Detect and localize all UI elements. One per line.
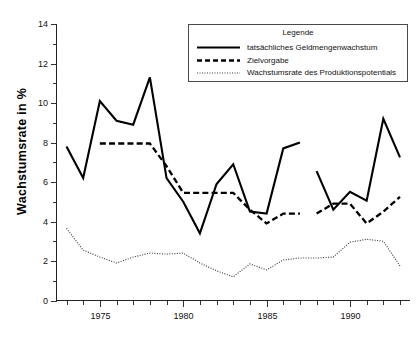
legend-title: Legende	[282, 28, 314, 37]
chart-legend: Legende tatsächliches Geldmengenwachstum…	[189, 25, 408, 82]
y-tick-label: 4	[43, 217, 48, 227]
x-axis-tick-labels: 1975198019851990	[90, 311, 360, 321]
y-tick-label: 6	[43, 177, 48, 187]
y-tick-label: 10	[38, 98, 48, 108]
y-tick-label: 0	[43, 296, 48, 306]
y-axis-ticks	[51, 25, 57, 302]
chart-plot-area: Wachstumsrate in % 02468101214 197519801…	[0, 0, 418, 337]
y-axis-tick-labels: 02468101214	[38, 19, 48, 306]
x-tick-label: 1975	[90, 311, 110, 321]
series-line-2-seg1	[100, 143, 300, 223]
y-tick-label: 14	[38, 19, 48, 29]
series-line-3	[67, 228, 401, 276]
x-tick-label: 1980	[173, 311, 193, 321]
chart-series-layer	[67, 77, 401, 276]
chart-container: Wachstumsrate in % 02468101214 197519801…	[0, 0, 418, 337]
legend-label-zielvorgabe: Zielvorgabe	[247, 56, 289, 65]
y-tick-label: 12	[38, 59, 48, 69]
legend-label-produktionspotential: Wachstumsrate des Produktionspotentials	[247, 68, 396, 77]
x-tick-label: 1985	[257, 311, 277, 321]
x-axis-ticks	[68, 301, 401, 308]
series-line-1-seg2	[317, 119, 400, 210]
y-tick-label: 8	[43, 138, 48, 148]
series-line-1-seg1	[67, 77, 300, 233]
legend-label-geldmengenwachstum: tatsächliches Geldmengenwachstum	[247, 43, 378, 52]
y-axis-title: Wachstumsrate in %	[15, 88, 29, 215]
x-tick-label: 1990	[340, 311, 360, 321]
y-tick-label: 2	[43, 256, 48, 266]
